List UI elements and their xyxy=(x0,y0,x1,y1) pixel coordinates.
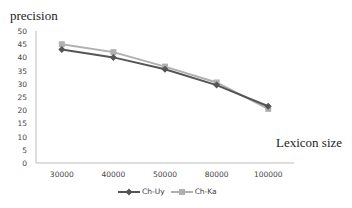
y-tick-label: 25 xyxy=(17,93,27,102)
x-tick-label: 40000 xyxy=(101,170,125,179)
y-tick-label: 35 xyxy=(17,67,27,76)
legend-item-ch-uy: Ch-Uy xyxy=(118,187,165,196)
line-chart: 0510152025303540455030000400005000080000… xyxy=(0,0,352,208)
y-tick-label: 20 xyxy=(17,106,27,115)
diamond-marker-icon xyxy=(118,188,140,196)
y-tick-label: 50 xyxy=(17,27,27,36)
x-tick-label: 50000 xyxy=(153,170,177,179)
series-line-ch-uy xyxy=(62,49,268,106)
x-tick-label: 80000 xyxy=(205,170,229,179)
x-tick-label: 30000 xyxy=(50,170,74,179)
y-tick-label: 0 xyxy=(22,159,27,168)
legend-item-ch-ka: Ch-Ka xyxy=(171,187,217,196)
y-tick-label: 10 xyxy=(17,133,27,142)
x-tick-label: 100000 xyxy=(254,170,283,179)
legend: Ch-Uy Ch-Ka xyxy=(118,187,217,196)
y-tick-label: 45 xyxy=(17,40,27,49)
y-tick-label: 15 xyxy=(17,119,27,128)
y-tick-label: 40 xyxy=(17,53,27,62)
y-tick-label: 5 xyxy=(22,146,27,155)
legend-label-ch-uy: Ch-Uy xyxy=(142,187,165,196)
square-marker-icon xyxy=(171,188,193,196)
legend-label-ch-ka: Ch-Ka xyxy=(195,187,217,196)
y-tick-label: 30 xyxy=(17,80,27,89)
